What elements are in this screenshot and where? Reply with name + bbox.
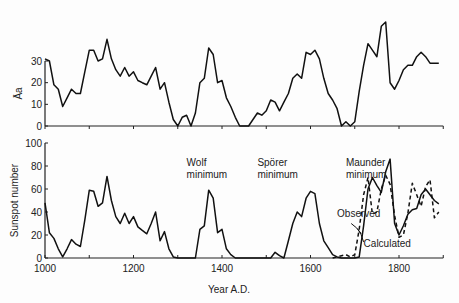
top-y-axis-label: Āa xyxy=(13,87,24,100)
annotation-spörer-line2: minimum xyxy=(257,169,298,180)
x-axis-label: Year A.D. xyxy=(208,284,250,295)
y-tick-label: 0 xyxy=(36,253,42,264)
chart-figure: 0102030Āa0204060801001000120014001600180… xyxy=(0,0,459,303)
y-tick-label: 20 xyxy=(31,230,43,241)
annotation-maunder-line2: minimum xyxy=(346,169,387,180)
y-tick-label: 10 xyxy=(31,99,43,110)
x-tick-label: 1400 xyxy=(211,263,234,274)
x-tick-label: 1800 xyxy=(388,263,411,274)
annotation-wolf-line2: minimum xyxy=(187,169,228,180)
y-tick-label: 80 xyxy=(31,161,43,172)
y-tick-label: 100 xyxy=(25,138,42,149)
x-tick-label: 1600 xyxy=(299,263,322,274)
y-tick-label: 0 xyxy=(36,121,42,132)
annotation-maunder: Maunder xyxy=(346,157,386,168)
series-aa xyxy=(45,22,439,126)
annotation-wolf: Wolf xyxy=(187,157,207,168)
y-tick-label: 20 xyxy=(31,77,43,88)
x-tick-label: 1200 xyxy=(122,263,145,274)
x-tick-label: 1000 xyxy=(34,263,57,274)
y-tick-label: 60 xyxy=(31,184,43,195)
y-tick-label: 30 xyxy=(31,56,43,67)
annotation-observed: Observed xyxy=(337,208,380,219)
y-tick-label: 40 xyxy=(31,207,43,218)
annotation-calculated: Calculated xyxy=(364,238,411,249)
bottom-y-axis-label: Sunspot number xyxy=(9,163,20,237)
annotation-spörer: Spörer xyxy=(257,157,288,168)
chart-svg: 0102030Āa0204060801001000120014001600180… xyxy=(0,0,459,303)
